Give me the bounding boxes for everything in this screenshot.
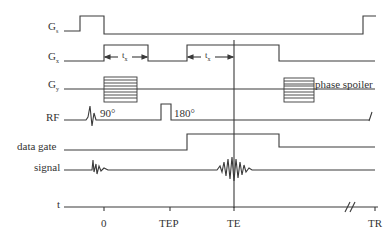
signal-waveform bbox=[64, 157, 375, 181]
rf-90-label: 90° bbox=[100, 108, 115, 119]
label-data-gate: data gate bbox=[17, 141, 56, 152]
label-gy: Gy bbox=[48, 79, 59, 92]
label-gx: Gx bbox=[48, 51, 59, 64]
label-gs: Gs bbox=[48, 21, 58, 34]
tx-label-2: tx bbox=[205, 51, 211, 62]
label-signal: signal bbox=[34, 162, 60, 173]
label-rf: RF bbox=[46, 112, 59, 123]
data-gate-waveform bbox=[64, 134, 375, 150]
rf-next-pulse bbox=[369, 112, 372, 121]
phase-spoiler-block bbox=[284, 78, 314, 102]
phase-spoiler-label: phase spoiler bbox=[315, 79, 373, 90]
tick-label-tr: TR bbox=[368, 218, 382, 229]
label-t: t bbox=[57, 199, 60, 210]
tick-label-0: 0 bbox=[101, 218, 107, 229]
tx-label-1: tx bbox=[122, 51, 128, 62]
gx-waveform bbox=[64, 45, 375, 61]
tick-label-te: TE bbox=[227, 218, 240, 229]
gs-waveform bbox=[64, 16, 376, 34]
rf-180-label: 180° bbox=[174, 108, 195, 119]
tick-label-tep: TEP bbox=[159, 218, 179, 229]
